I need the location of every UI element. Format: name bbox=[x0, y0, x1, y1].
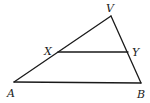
label-A: A bbox=[6, 87, 15, 100]
label-Y: Y bbox=[132, 46, 141, 59]
triangle-diagram: V X Y A B bbox=[0, 0, 150, 103]
label-X: X bbox=[43, 45, 53, 58]
label-V: V bbox=[106, 2, 115, 15]
segment-AV bbox=[14, 16, 111, 82]
label-B: B bbox=[136, 88, 145, 101]
segment-AB bbox=[14, 82, 141, 83]
